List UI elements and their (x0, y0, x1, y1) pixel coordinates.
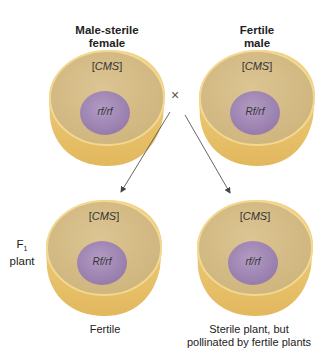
offspring-caption-sterile: Sterile plant, but pollinated by fertile… (178, 323, 320, 349)
offspring-cell-fertile: [CMS] Rf/rf (42, 198, 166, 320)
male-parent-cell: [CMS] Rf/rf (195, 48, 319, 170)
female-title-line1: Male-sterile (55, 24, 159, 37)
male-title-line1: Fertile (205, 24, 309, 37)
genotype-label: Rf/rf (77, 256, 127, 267)
f1-generation-label: F1 plant (4, 238, 40, 268)
offspring-caption-fertile: Fertile (55, 323, 155, 336)
female-parent-cell: [CMS] rf/rf (45, 48, 169, 170)
cross-symbol: × (171, 87, 179, 103)
cytoplasm-label: [CMS] (193, 210, 317, 222)
male-parent-title: Fertile male (205, 24, 309, 50)
female-parent-title: Male-sterile female (55, 24, 159, 50)
cytoplasm-label: [CMS] (42, 210, 166, 222)
cytoplasm-label: [CMS] (195, 60, 319, 72)
genotype-label: rf/rf (80, 106, 130, 117)
genotype-label: rf/rf (228, 256, 278, 267)
offspring-cell-sterile: [CMS] rf/rf (193, 198, 317, 320)
cytoplasm-label: [CMS] (45, 60, 169, 72)
genotype-label: Rf/rf (230, 106, 280, 117)
